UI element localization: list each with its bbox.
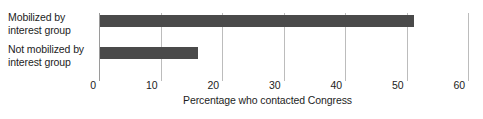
category-label-line: interest group [8,24,100,37]
x-tick-label-0: 0 [90,79,99,91]
category-label-line: Mobilized by [8,11,100,24]
bar-1 [100,47,198,59]
x-tick-label-60: 60 [454,79,468,91]
category-label-line: Not mobilized by [8,43,100,56]
category-label-mobilized: Mobilized by interest group [8,11,100,36]
bar-0 [100,15,414,27]
x-tick-label-20: 20 [208,79,222,91]
category-label-not-mobilized: Not mobilized by interest group [8,43,100,68]
gridline-60 [468,13,469,81]
category-label-line: interest group [8,56,100,69]
x-tick-label-40: 40 [331,79,345,91]
plot-area: 0102030405060 [99,13,469,81]
x-tick-label-10: 10 [146,79,160,91]
bar-chart: Mobilized by interest group Not mobilize… [0,0,483,119]
x-axis-title: Percentage who contacted Congress [0,94,483,106]
x-tick-label-30: 30 [269,79,283,91]
x-tick-label-50: 50 [392,79,406,91]
